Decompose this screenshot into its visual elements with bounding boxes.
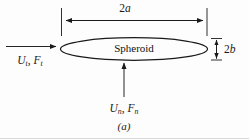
minor-axis-label: 2b <box>224 44 236 56</box>
tangential-vector-label: Ut, Ft <box>17 55 42 67</box>
minor-axis-label-symbol: b <box>230 43 236 55</box>
spheroid-force-diagram: 2a 2b Spheroid Ut, Ft Un, Fn (a) <box>0 0 249 140</box>
major-axis-label: 2a <box>119 3 131 15</box>
figure-caption: (a) <box>118 121 131 132</box>
normal-vector-label: Un, Fn <box>110 103 139 115</box>
minor-axis-dimension-line <box>211 39 222 61</box>
normal-force-subscript: n <box>135 107 139 116</box>
major-axis-extension-lines <box>62 8 208 36</box>
normal-force-symbol: F <box>128 102 135 114</box>
major-axis-label-symbol: a <box>125 2 131 14</box>
normal-velocity-subscript: n <box>118 107 122 116</box>
diagram-canvas <box>0 0 249 140</box>
spheroid-body-label: Spheroid <box>114 43 154 54</box>
